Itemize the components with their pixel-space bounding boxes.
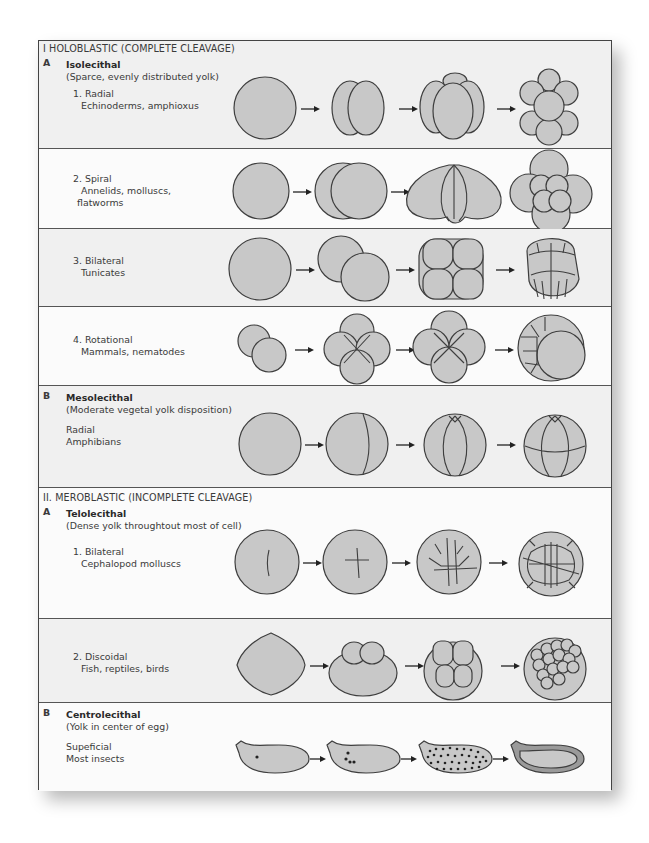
rotational-cleavage-diagram xyxy=(39,307,613,386)
row-centrolecithal: B Centrolecithal (Yolk in center of egg)… xyxy=(39,703,611,791)
bilateral-cleavage-diagram xyxy=(39,229,613,307)
mesolecithal-cleavage-diagram xyxy=(39,386,613,488)
radial-cleavage-diagram xyxy=(39,41,613,149)
row-isolecithal-rotational: 4. Rotational Mammals, nematodes xyxy=(39,307,611,386)
row-mesolecithal: B Mesolecithal (Moderate vegetal yolk di… xyxy=(39,386,611,488)
spiral-cleavage-diagram xyxy=(39,149,613,229)
row-telolecithal-discoidal: 2. Discoidal Fish, reptiles, birds xyxy=(39,619,611,703)
telolecithal-bilateral-diagram xyxy=(39,488,613,619)
superficial-cleavage-diagram xyxy=(39,703,613,791)
discoidal-cleavage-diagram xyxy=(39,619,613,703)
row-telolecithal-bilateral: II. MEROBLASTIC (INCOMPLETE CLEAVAGE) A … xyxy=(39,488,611,619)
row-isolecithal-bilateral: 3. Bilateral Tunicates xyxy=(39,229,611,307)
row-isolecithal-radial: I HOLOBLASTIC (COMPLETE CLEAVAGE) A Isol… xyxy=(39,41,611,149)
row-isolecithal-spiral: 2. Spiral Annelids, molluscs, flatworms xyxy=(39,149,611,229)
cleavage-patterns-figure: I HOLOBLASTIC (COMPLETE CLEAVAGE) A Isol… xyxy=(38,40,612,790)
